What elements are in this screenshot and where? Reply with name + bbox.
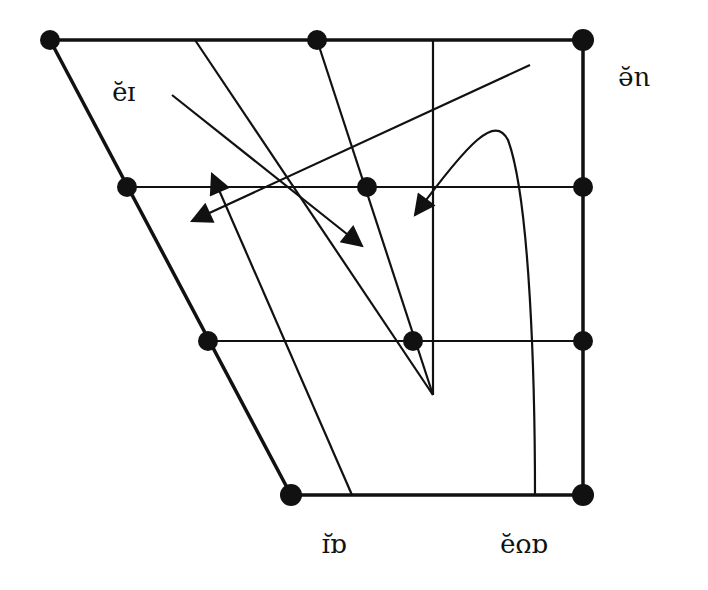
label-ei: ɪə̯ xyxy=(112,83,136,109)
diphthong-arrows xyxy=(172,65,535,495)
arrow-ei xyxy=(172,95,362,246)
label-auo: ɑʊə̯ xyxy=(500,535,548,561)
arrow-ue xyxy=(192,65,530,221)
vowel-trapezoid xyxy=(0,0,708,590)
vowel-chart: ɪə̯ ue̯ ɑɪ̯ ɑʊə̯ xyxy=(0,0,708,590)
label-ai: ɑɪ̯ xyxy=(322,535,347,561)
label-ue: ue̯ xyxy=(618,68,650,94)
